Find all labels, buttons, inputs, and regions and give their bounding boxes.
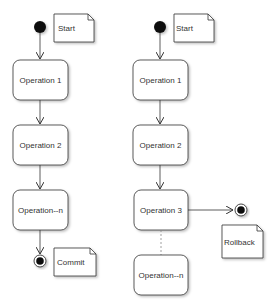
- right-operation-3-label: Operation 3: [140, 206, 182, 215]
- right-start-node: [154, 21, 166, 33]
- right-start-note-label: Start: [176, 24, 194, 33]
- left-flow: Start Operation 1 Operation 2 Operation-…: [13, 14, 96, 276]
- commit-note-label: Commit: [57, 258, 85, 267]
- left-operation-n-label: Operation--n: [18, 206, 63, 215]
- right-operation-1-label: Operation 1: [140, 76, 182, 85]
- rollback-note-label: Rollback: [224, 238, 256, 247]
- left-start-note-label: Start: [58, 24, 76, 33]
- right-operation-2-label: Operation 2: [140, 141, 182, 150]
- right-operation-n-label: Operation--n: [139, 271, 184, 280]
- left-operation-1-label: Operation 1: [20, 76, 62, 85]
- left-operation-2-label: Operation 2: [20, 141, 62, 150]
- left-end-node: [34, 255, 46, 267]
- rollback-end-node: [235, 204, 247, 216]
- right-flow: Start Operation 1 Operation 2 Operation …: [133, 14, 263, 295]
- activity-diagram: Start Operation 1 Operation 2 Operation-…: [0, 0, 272, 306]
- left-start-node: [34, 21, 46, 33]
